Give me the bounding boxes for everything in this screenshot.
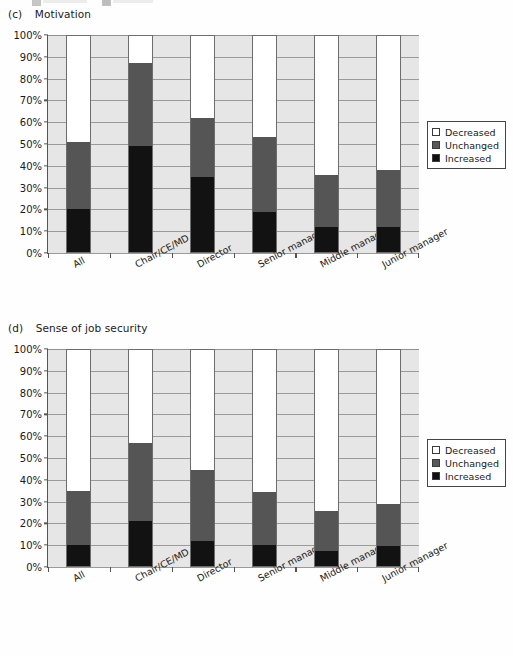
- segment-decreased: [252, 35, 277, 137]
- chart-c-ytick-label: 40%: [20, 160, 42, 171]
- y-axis-tick: [44, 209, 48, 210]
- bar-middle-manager: [314, 349, 339, 567]
- chart-d-ytick-label: 70%: [20, 409, 42, 420]
- y-axis-tick: [44, 370, 48, 371]
- gridline: [48, 371, 419, 372]
- legend-item: Increased: [432, 470, 500, 482]
- y-axis-tick: [44, 122, 48, 123]
- chart-c-ytick-label: 80%: [20, 73, 42, 84]
- chart-c-plot-area: 0%10%20%30%40%50%60%70%80%90%100%AllChai…: [47, 35, 419, 254]
- segment-increased: [128, 146, 153, 253]
- segment-unchanged: [66, 491, 91, 546]
- gridline: [48, 166, 419, 167]
- chart-d-ytick-label: 90%: [20, 365, 42, 376]
- x-axis-tick: [295, 567, 296, 572]
- gridline: [48, 144, 419, 145]
- legend-item: Unchanged: [432, 139, 500, 151]
- chart-panel-c: (c) Motivation 0%10%20%30%40%50%60%70%80…: [0, 8, 513, 313]
- chart-d-plot-area: 0%10%20%30%40%50%60%70%80%90%100%AllChai…: [47, 349, 419, 568]
- segment-increased: [66, 209, 91, 253]
- chart-c-legend: DecreasedUnchangedIncreased: [427, 121, 506, 169]
- segment-decreased: [190, 35, 215, 118]
- gridline: [48, 523, 419, 524]
- gridline: [48, 480, 419, 481]
- x-axis-tick: [48, 253, 49, 258]
- chart-d-ytick-label: 60%: [20, 431, 42, 442]
- segment-unchanged: [190, 118, 215, 177]
- legend-item: Unchanged: [432, 457, 500, 469]
- chart-d-ytick-label: 50%: [20, 453, 42, 464]
- segment-unchanged: [252, 137, 277, 211]
- chart-d-xtick-label: All: [71, 568, 87, 583]
- chart-c-ytick-label: 0%: [26, 248, 42, 259]
- y-axis-tick: [44, 414, 48, 415]
- chart-c-ytick-label: 90%: [20, 51, 42, 62]
- segment-decreased: [314, 35, 339, 175]
- y-axis-tick: [44, 457, 48, 458]
- chart-c-ytick-label: 70%: [20, 95, 42, 106]
- y-axis-tick: [44, 501, 48, 502]
- chart-d-ytick-label: 40%: [20, 474, 42, 485]
- segment-decreased: [314, 349, 339, 511]
- segment-decreased: [128, 349, 153, 443]
- segment-unchanged: [314, 175, 339, 227]
- x-axis-tick: [295, 253, 296, 258]
- fragment-swatch-black: [102, 0, 111, 6]
- x-axis-tick: [357, 567, 358, 572]
- gridline: [48, 393, 419, 394]
- segment-increased: [376, 227, 401, 253]
- chart-d-legend: DecreasedUnchangedIncreased: [427, 439, 506, 487]
- segment-decreased: [252, 349, 277, 492]
- y-axis-tick: [44, 479, 48, 480]
- gridline: [48, 436, 419, 437]
- chart-c-xtick-label: All: [71, 254, 87, 269]
- segment-unchanged: [376, 170, 401, 227]
- legend-label: Decreased: [445, 445, 496, 456]
- y-axis-tick: [44, 56, 48, 57]
- y-axis-tick: [44, 348, 48, 349]
- y-axis-tick: [44, 392, 48, 393]
- x-axis-tick: [48, 567, 49, 572]
- segment-increased: [128, 521, 153, 567]
- gridline: [48, 209, 419, 210]
- chart-c-ytick-label: 50%: [20, 139, 42, 150]
- segment-increased: [252, 212, 277, 253]
- bar-chair-ce-md: [128, 35, 153, 253]
- chart-c-ytick-label: 20%: [20, 204, 42, 215]
- gridline: [48, 414, 419, 415]
- legend-swatch-increased: [432, 472, 440, 480]
- chart-c-title-row: (c) Motivation: [8, 8, 91, 20]
- gridline: [48, 545, 419, 546]
- segment-decreased: [376, 349, 401, 504]
- gridline: [48, 35, 419, 36]
- segment-unchanged: [376, 504, 401, 547]
- legend-swatch-unchanged: [432, 141, 440, 149]
- bar-junior-manager: [376, 35, 401, 253]
- chart-d-ytick-label: 30%: [20, 496, 42, 507]
- x-axis-tick: [172, 567, 173, 572]
- y-axis-tick: [44, 34, 48, 35]
- segment-unchanged: [66, 142, 91, 210]
- segment-decreased: [66, 349, 91, 491]
- bar-director: [190, 349, 215, 567]
- legend-swatch-unchanged: [432, 459, 440, 467]
- chart-d-ytick-label: 10%: [20, 540, 42, 551]
- gridline: [48, 122, 419, 123]
- figure-page: (c) Motivation 0%10%20%30%40%50%60%70%80…: [0, 0, 513, 656]
- segment-increased: [190, 541, 215, 567]
- legend-item: Decreased: [432, 444, 500, 456]
- segment-unchanged: [314, 511, 339, 550]
- legend-swatch-increased: [432, 154, 440, 162]
- chart-c-panel-label: (c): [8, 8, 22, 20]
- segment-decreased: [376, 35, 401, 170]
- segment-unchanged: [190, 470, 215, 541]
- segment-increased: [190, 177, 215, 253]
- legend-swatch-decreased: [432, 446, 440, 454]
- x-axis-tick: [234, 567, 235, 572]
- gridline: [48, 100, 419, 101]
- gridline: [48, 458, 419, 459]
- legend-label: Unchanged: [445, 140, 499, 151]
- y-axis-tick: [44, 165, 48, 166]
- x-axis-tick: [418, 567, 419, 572]
- bar-director: [190, 35, 215, 253]
